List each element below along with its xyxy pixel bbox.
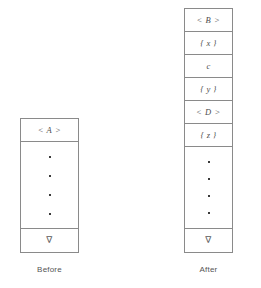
- after-stack-cell-5-label: { z }: [201, 131, 217, 140]
- nabla-icon: ∇: [46, 236, 52, 245]
- after-stack-bottom-cell: ∇: [185, 229, 232, 252]
- after-caption: After: [184, 265, 233, 274]
- stack-dot: [208, 212, 210, 214]
- before-caption: Before: [20, 265, 79, 274]
- stack-dot: [49, 175, 51, 177]
- after-stack-cell-1-label: { x }: [200, 39, 216, 48]
- after-stack-cell-5: { z }: [185, 124, 232, 147]
- after-stack-cell-3: { y }: [185, 78, 232, 101]
- stack-dot: [49, 156, 51, 158]
- after-stack-cell-4: < D >: [185, 101, 232, 124]
- before-stack-header-cell: < A >: [21, 119, 78, 142]
- before-stack-body-cell: [21, 142, 78, 229]
- after-stack-cell-4-label: < D >: [196, 108, 221, 117]
- stack-diagram-figure: < A > ∇ Before < B > { x } c { y } < D >: [0, 0, 261, 288]
- after-stack-cell-2-label: c: [206, 62, 210, 71]
- stack-dot: [208, 195, 210, 197]
- after-stack-cell-0-label: < B >: [197, 16, 221, 25]
- nabla-icon: ∇: [205, 236, 211, 245]
- after-stack-cell-1: { x }: [185, 32, 232, 55]
- before-stack: < A > ∇: [20, 118, 79, 253]
- stack-dot: [208, 161, 210, 163]
- stack-dot: [208, 178, 210, 180]
- after-stack-cell-2: c: [185, 55, 232, 78]
- stack-dot: [49, 194, 51, 196]
- after-stack-body-cell: [185, 147, 232, 229]
- after-stack-cell-0: < B >: [185, 9, 232, 32]
- stack-dot: [49, 213, 51, 215]
- after-stack: < B > { x } c { y } < D > { z } ∇: [184, 8, 233, 253]
- before-stack-header-label: < A >: [38, 126, 62, 135]
- after-stack-cell-3-label: { y }: [200, 85, 216, 94]
- before-stack-bottom-cell: ∇: [21, 229, 78, 252]
